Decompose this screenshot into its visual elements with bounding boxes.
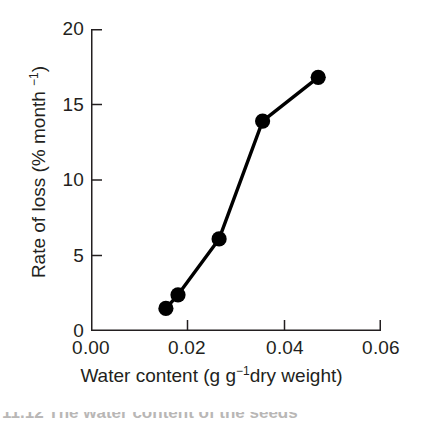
line-chart — [91, 29, 381, 331]
x-axis-ticks — [188, 320, 381, 330]
x-tick-label-0.06: 0.06 — [362, 338, 400, 357]
x-axis-title-post: dry weight) — [250, 365, 343, 386]
x-axis-title-superscript: −1 — [236, 364, 250, 378]
data-markers — [158, 70, 325, 316]
plot-area — [91, 29, 381, 331]
y-tick-label-15: 15 — [62, 95, 84, 114]
figure-caption-text: 11.12 The water content of the seeds — [2, 412, 298, 423]
y-axis-title-wrapper: Rate of loss (% month −1) — [27, 22, 51, 322]
x-axis-title-pre: Water content (g g — [80, 365, 236, 386]
y-axis-title: Rate of loss (% month −1) — [27, 22, 51, 322]
data-point — [158, 301, 173, 316]
data-line — [166, 77, 318, 308]
y-axis-ticks — [92, 30, 102, 256]
x-tick-label-0.02: 0.02 — [168, 338, 206, 357]
figure-caption-strip: 11.12 The water content of the seeds — [0, 412, 423, 424]
x-axis-tick-labels: 0.00 0.02 0.04 0.06 — [0, 338, 423, 362]
x-tick-label-0.00: 0.00 — [72, 338, 110, 357]
axis-lines — [91, 29, 381, 331]
y-axis-title-superscript: −1 — [27, 72, 41, 86]
y-axis-title-pre: Rate of loss (% month — [28, 86, 49, 278]
data-point — [212, 231, 227, 246]
data-point — [311, 70, 326, 85]
y-tick-label-20: 20 — [62, 19, 84, 38]
y-axis-title-post: ) — [28, 66, 49, 72]
y-tick-label-5: 5 — [73, 246, 84, 265]
data-point — [170, 287, 185, 302]
x-tick-label-0.04: 0.04 — [266, 338, 304, 357]
figure-container: 20 15 10 5 0 0.00 0.02 0.04 0.06 Water c… — [0, 0, 423, 424]
x-axis-title: Water content (g g−1dry weight) — [0, 365, 423, 387]
data-point — [255, 114, 270, 129]
y-tick-label-10: 10 — [62, 170, 84, 189]
